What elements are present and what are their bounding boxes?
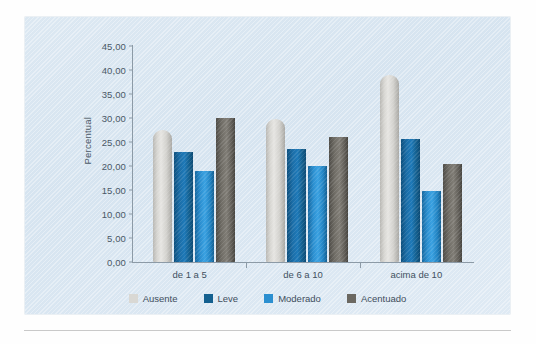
legend-swatch-icon [204, 294, 213, 303]
page-background: Percentual 45,0040,0035,0030,0025,0020,0… [0, 0, 536, 344]
footer-divider [24, 330, 511, 331]
x-axis-tick-mark [246, 262, 247, 268]
bar-leve[interactable] [174, 152, 193, 262]
chart-panel: Percentual 45,0040,0035,0030,0025,0020,0… [25, 17, 510, 314]
y-axis-title: Percentual [82, 117, 96, 164]
plot-area: 45,0040,0035,0030,0025,0020,0015,0010,00… [133, 46, 473, 262]
legend-swatch-icon [264, 294, 273, 303]
bar-ausente[interactable] [380, 75, 399, 262]
x-axis-category-label: acima de 10 [360, 269, 473, 280]
bar-group [360, 46, 473, 262]
legend-item[interactable]: Moderado [264, 293, 321, 304]
bar-ausente[interactable] [153, 130, 172, 262]
x-axis-tick-mark [360, 262, 361, 268]
legend-label: Moderado [278, 293, 321, 304]
bar-moderado[interactable] [195, 171, 214, 262]
bar-acentuado[interactable] [329, 137, 348, 262]
bar-ausente[interactable] [266, 119, 285, 262]
bar-group [133, 46, 246, 262]
legend-swatch-icon [347, 294, 356, 303]
x-axis-category-label: de 1 a 5 [133, 269, 246, 280]
bar-group [246, 46, 359, 262]
legend-item[interactable]: Leve [204, 293, 239, 304]
x-axis-category-label: de 6 a 10 [246, 269, 359, 280]
legend-label: Acentuado [361, 293, 406, 304]
legend-label: Leve [218, 293, 239, 304]
bar-acentuado[interactable] [216, 118, 235, 262]
chart-legend: AusenteLeveModeradoAcentuado [25, 293, 510, 304]
bar-moderado[interactable] [308, 166, 327, 262]
bar-moderado[interactable] [422, 191, 441, 262]
legend-swatch-icon [129, 294, 138, 303]
legend-label: Ausente [143, 293, 178, 304]
legend-item[interactable]: Acentuado [347, 293, 406, 304]
x-axis-line [132, 262, 474, 263]
bar-leve[interactable] [287, 149, 306, 262]
bar-leve[interactable] [401, 139, 420, 262]
legend-item[interactable]: Ausente [129, 293, 178, 304]
bar-acentuado[interactable] [443, 164, 462, 262]
